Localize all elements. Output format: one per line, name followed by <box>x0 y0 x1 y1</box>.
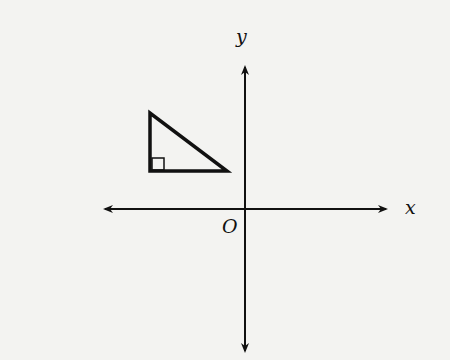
x-axis-label: x <box>405 196 416 218</box>
right-triangle <box>150 113 227 171</box>
origin-label: O <box>222 215 238 237</box>
coordinate-diagram: y x O <box>0 0 450 360</box>
y-axis-label: y <box>236 25 247 47</box>
diagram-canvas <box>0 0 450 360</box>
right-angle-marker <box>152 158 164 170</box>
